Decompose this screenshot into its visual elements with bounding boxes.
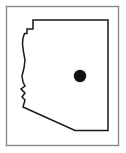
map-figure <box>0 0 126 153</box>
map-canvas <box>0 0 126 153</box>
location-dot <box>74 70 86 82</box>
